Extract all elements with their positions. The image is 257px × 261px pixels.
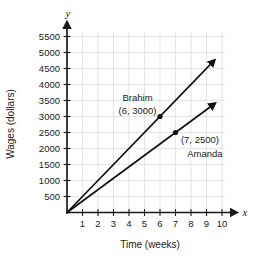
annotation-amanda: Amanda	[187, 148, 223, 159]
x-tick-label: 4	[126, 218, 131, 229]
y-tick-label: 3500	[39, 95, 60, 106]
y-tick-label: 5500	[39, 31, 60, 42]
y-tick-label: 5000	[39, 47, 60, 58]
y-tick-label: 1000	[39, 175, 60, 186]
y-tick-label: 2500	[39, 127, 60, 138]
y-tick-label: 3000	[39, 111, 60, 122]
y-axis-letter: y	[65, 7, 71, 19]
x-tick-label: 3	[111, 218, 116, 229]
x-axis-letter: x	[242, 206, 248, 218]
y-tick-label: 4000	[39, 79, 60, 90]
annotation-brahim: Brahim	[122, 92, 152, 103]
x-tick-label: 2	[95, 218, 100, 229]
y-tick-label: 2000	[39, 143, 60, 154]
wages-vs-time-line-chart: 5001000150020002500300035004000450050005…	[0, 0, 257, 261]
y-axis-ticks: 5001000150020002500300035004000450050005…	[39, 31, 71, 202]
y-tick-label: 500	[44, 191, 60, 202]
y-axis-title: Wages (dollars)	[5, 89, 16, 159]
x-tick-label: 7	[173, 218, 178, 229]
gridlines	[67, 32, 225, 213]
annotation-7-2500: (7, 2500)	[181, 134, 219, 145]
x-tick-label: 6	[157, 218, 162, 229]
x-tick-label: 9	[204, 218, 209, 229]
annotation-6-3000: (6, 3000)	[119, 105, 157, 116]
x-axis-title: Time (weeks)	[120, 239, 180, 250]
data-point-brahim	[157, 114, 162, 119]
data-point-amanda	[173, 130, 178, 135]
y-tick-label: 4500	[39, 63, 60, 74]
x-tick-label: 1	[80, 218, 85, 229]
data-point-markers	[157, 114, 178, 135]
y-tick-label: 1500	[39, 159, 60, 170]
x-tick-label: 10	[217, 218, 228, 229]
chart-canvas: 5001000150020002500300035004000450050005…	[0, 0, 257, 261]
x-tick-label: 5	[142, 218, 147, 229]
x-tick-label: 8	[188, 218, 193, 229]
